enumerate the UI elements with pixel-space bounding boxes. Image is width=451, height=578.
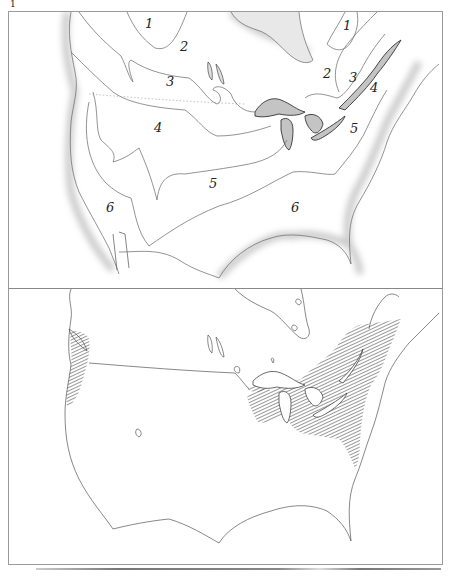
figure-bottom-rule: [36, 568, 441, 570]
zone-label: 3: [166, 74, 174, 89]
us-canada-border: [89, 94, 245, 104]
range-eastern: [247, 319, 401, 469]
zone-label: 4: [154, 120, 162, 135]
zone-label: 1: [343, 18, 351, 33]
zone-boundaries: [71, 12, 387, 246]
hudson-bay-coast: [231, 12, 313, 63]
figure-marker: 1: [10, 0, 16, 8]
zone-label: 1: [145, 16, 153, 31]
coast-stipple: [66, 12, 419, 277]
zone-label: 6: [291, 200, 299, 215]
zone-label: 5: [350, 121, 358, 136]
lake-winnipeg: [208, 62, 224, 84]
zone-label: 2: [323, 66, 331, 81]
zone-label: 3: [349, 70, 357, 85]
zone-label: 6: [106, 200, 114, 215]
zone-label: 2: [180, 39, 188, 54]
zone-map-drawing: [9, 12, 442, 289]
zone-label: 4: [370, 80, 378, 95]
range-pacific-northwest: [66, 331, 89, 407]
distribution-map-drawing: [9, 289, 442, 564]
coastline: [69, 12, 439, 278]
zone-map-panel: 1 2 3 4 6 5 6 1 2 3 4 5: [8, 11, 443, 289]
zone-label: 5: [209, 176, 217, 191]
distribution-map-panel: [8, 288, 443, 565]
